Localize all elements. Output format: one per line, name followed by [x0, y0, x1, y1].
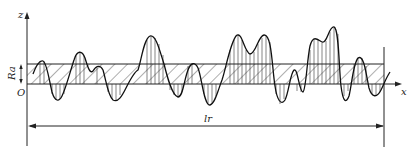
x-axis-label: x: [401, 86, 407, 97]
ra-label: Ra: [6, 66, 17, 81]
lr-label: lr: [204, 113, 213, 124]
z-axis-arrow-icon: [25, 12, 30, 19]
ra-arrow-up-icon: [19, 64, 22, 69]
ra-band-hatch: [27, 64, 384, 84]
origin-label: O: [17, 87, 25, 98]
z-axis-label: z: [17, 9, 24, 20]
lr-arrow-left-icon: [28, 124, 36, 129]
lr-arrow-right-icon: [376, 124, 384, 129]
ra-arrow-down-icon: [19, 79, 22, 84]
ra-profile-diagram: z x O Ra lr: [0, 0, 415, 153]
